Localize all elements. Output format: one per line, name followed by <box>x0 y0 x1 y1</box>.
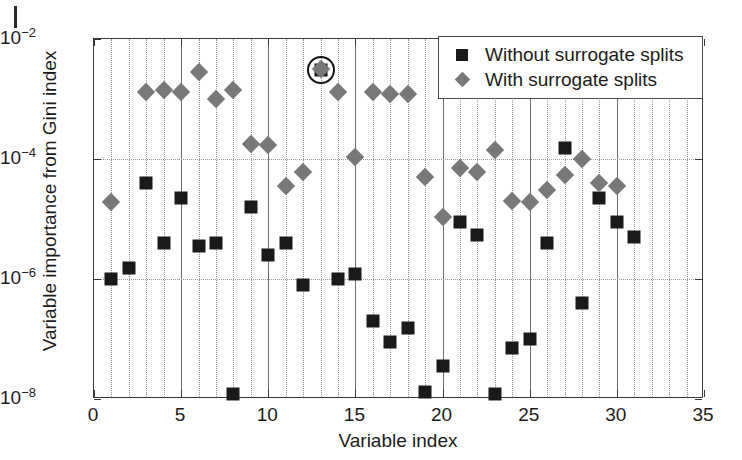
data-point <box>573 150 591 168</box>
vertical-gridline-minor <box>251 39 252 397</box>
data-point <box>538 181 556 199</box>
y-tick-label: 10−2 <box>0 27 36 49</box>
data-point <box>503 192 521 210</box>
y-tick-right <box>695 159 702 160</box>
data-point <box>384 335 397 348</box>
legend: Without surrogate splits With surrogate … <box>438 36 703 99</box>
data-point <box>401 322 414 335</box>
x-tick-label: 20 <box>431 404 452 426</box>
data-point <box>279 236 292 249</box>
data-point <box>262 249 275 262</box>
data-point <box>297 278 310 291</box>
data-point <box>346 147 364 165</box>
vertical-gridline-major <box>355 39 356 397</box>
data-point <box>227 388 240 401</box>
vertical-gridline-minor <box>286 39 287 397</box>
data-point <box>419 386 432 399</box>
data-point <box>122 262 135 275</box>
data-point <box>451 159 469 177</box>
data-point <box>523 333 536 346</box>
data-point <box>506 342 519 355</box>
y-tick-label: 10−6 <box>0 267 36 289</box>
data-point <box>468 163 486 181</box>
data-point <box>416 168 434 186</box>
data-point <box>207 90 225 108</box>
data-point <box>610 215 623 228</box>
y-tick <box>94 279 101 280</box>
vertical-gridline-minor <box>321 39 322 397</box>
data-point <box>137 83 155 101</box>
data-point <box>488 388 501 401</box>
y-tick <box>94 159 101 160</box>
y-tick-label: 10−4 <box>0 147 36 169</box>
data-point <box>175 192 188 205</box>
legend-label-0: Without surrogate splits <box>485 44 684 66</box>
x-tick <box>268 390 269 397</box>
x-tick-label: 30 <box>605 404 626 426</box>
x-tick <box>443 390 444 397</box>
data-point <box>628 231 641 244</box>
data-point <box>399 85 417 103</box>
y-tick-right <box>695 279 702 280</box>
legend-diamond-icon <box>449 74 475 85</box>
data-point <box>555 165 573 183</box>
data-point <box>157 236 170 249</box>
x-tick-label: 10 <box>257 404 278 426</box>
data-point <box>244 200 257 213</box>
horizontal-gridline <box>94 279 702 280</box>
vertical-gridline-minor <box>199 39 200 397</box>
x-axis-label: Variable index <box>93 430 703 452</box>
data-point <box>210 236 223 249</box>
data-point <box>329 83 347 101</box>
x-tick-label: 5 <box>175 404 186 426</box>
vertical-gridline-minor <box>425 39 426 397</box>
x-tick-top <box>355 39 356 46</box>
y-tick <box>94 399 101 400</box>
x-tick <box>530 390 531 397</box>
x-tick <box>704 390 705 397</box>
data-point <box>590 174 608 192</box>
data-point <box>593 192 606 205</box>
x-tick <box>617 390 618 397</box>
x-tick-label: 15 <box>344 404 365 426</box>
data-point <box>471 228 484 241</box>
data-point <box>140 176 153 189</box>
legend-entry-with-surrogate-splits: With surrogate splits <box>449 67 690 92</box>
data-point <box>558 142 571 155</box>
data-point <box>436 360 449 373</box>
corner-mark <box>14 6 17 28</box>
data-point <box>189 63 207 81</box>
data-point <box>433 207 451 225</box>
data-point <box>105 273 118 286</box>
data-point <box>366 314 379 327</box>
x-tick-label: 35 <box>692 404 713 426</box>
x-tick-label: 0 <box>88 404 99 426</box>
data-point <box>102 193 120 211</box>
vertical-gridline-minor <box>111 39 112 397</box>
vertical-gridline-minor <box>129 39 130 397</box>
x-tick-top <box>94 39 95 46</box>
data-point <box>349 268 362 281</box>
x-tick-top <box>181 39 182 46</box>
data-point <box>224 81 242 99</box>
x-tick <box>181 390 182 397</box>
data-point <box>242 134 260 152</box>
vertical-gridline-minor <box>303 39 304 397</box>
data-point <box>294 163 312 181</box>
data-point <box>608 177 626 195</box>
data-point <box>364 83 382 101</box>
vertical-gridline-major <box>268 39 269 397</box>
data-point <box>454 215 467 228</box>
data-point <box>259 136 277 154</box>
data-point <box>381 85 399 103</box>
data-point <box>521 193 539 211</box>
data-point <box>172 83 190 101</box>
y-axis-label: Variable importance from Gini index <box>39 1 61 401</box>
x-tick <box>94 390 95 397</box>
x-tick-top <box>704 39 705 46</box>
x-tick-label: 25 <box>518 404 539 426</box>
data-point <box>277 177 295 195</box>
legend-entry-without-surrogate-splits: Without surrogate splits <box>449 42 690 67</box>
figure-container: Variable importance from Gini index Vari… <box>0 0 742 460</box>
data-point <box>155 81 173 99</box>
